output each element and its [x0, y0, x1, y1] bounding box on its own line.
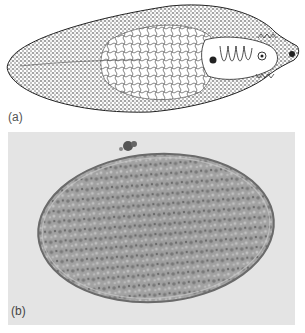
panel-label-a: (a) [8, 110, 23, 124]
figure-panel-b: (b) [8, 132, 295, 325]
liver-fluke-drawing [0, 0, 305, 128]
figure-panel-a: (a) [0, 0, 305, 128]
panel-label-b: (b) [11, 304, 26, 318]
oral-sucker [289, 51, 295, 57]
egg-micrograph [8, 132, 295, 325]
ventral-sucker [210, 57, 217, 64]
fluke-branched-organs [101, 25, 215, 99]
